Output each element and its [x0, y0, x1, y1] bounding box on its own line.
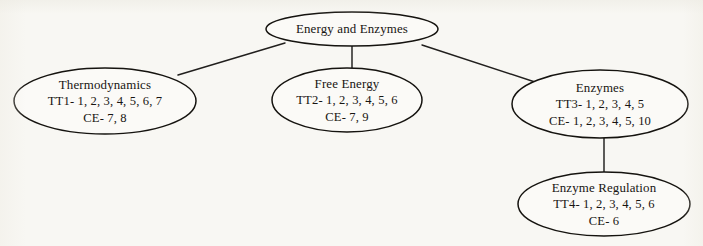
node-root[interactable]: Energy and Enzymes: [266, 12, 438, 46]
node-enzyme-regulation-line-2: TT4- 1, 2, 3, 4, 5, 6: [553, 197, 654, 211]
node-enzyme-regulation-line-3: CE- 6: [589, 214, 619, 228]
node-enzymes-line-1: Enzymes: [576, 81, 624, 95]
node-root-line-1: Energy and Enzymes: [296, 22, 408, 36]
concept-map-diagram: Energy and Enzymes Thermodynamics TT1- 1…: [0, 0, 703, 246]
node-free-energy[interactable]: Free Energy TT2- 1, 2, 3, 4, 5, 6 CE- 7,…: [272, 68, 422, 132]
node-thermodynamics-line-1: Thermodynamics: [59, 78, 151, 92]
edge-root-to-thermodynamics: [178, 43, 285, 75]
node-free-energy-line-2: TT2- 1, 2, 3, 4, 5, 6: [296, 93, 397, 107]
node-enzymes[interactable]: Enzymes TT3- 1, 2, 3, 4, 5 CE- 1, 2, 3, …: [512, 70, 688, 138]
node-free-energy-line-1: Free Energy: [315, 77, 380, 91]
node-enzymes-line-2: TT3- 1, 2, 3, 4, 5: [556, 97, 644, 111]
diagram-canvas: Energy and Enzymes Thermodynamics TT1- 1…: [0, 0, 703, 246]
node-thermodynamics[interactable]: Thermodynamics TT1- 1, 2, 3, 4, 5, 6, 7 …: [14, 68, 196, 134]
node-enzyme-regulation-line-1: Enzyme Regulation: [552, 181, 657, 195]
node-free-energy-line-3: CE- 7, 9: [325, 110, 369, 124]
node-thermodynamics-line-2: TT1- 1, 2, 3, 4, 5, 6, 7: [48, 94, 162, 108]
node-thermodynamics-line-3: CE- 7, 8: [83, 111, 127, 125]
node-enzyme-regulation[interactable]: Enzyme Regulation TT4- 1, 2, 3, 4, 5, 6 …: [518, 172, 690, 236]
edge-root-to-enzymes: [422, 45, 538, 83]
node-enzymes-line-3: CE- 1, 2, 3, 4, 5, 10: [549, 114, 651, 128]
